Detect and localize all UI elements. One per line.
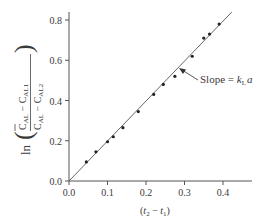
chart: 0.00.20.40.60.8 0.00.10.20.30.4 Slope = … [0,0,262,223]
x-tick-label: 0.0 [63,187,76,198]
data-point [85,160,88,163]
data-points [85,22,221,163]
data-point [208,32,211,35]
data-point [106,140,109,143]
svg-text:ln: ln [18,144,33,155]
data-point [112,135,115,138]
data-point [152,93,155,96]
svg-text:): ) [9,44,38,53]
y-axis-label: ln ( CAL − CAL1 CAL − CAL2 ) [9,44,45,155]
data-point [162,83,165,86]
data-point [94,150,97,153]
x-tick-label: 0.2 [140,187,153,198]
y-tick-label: 0.8 [50,15,63,26]
y-tick-label: 0.2 [50,136,63,147]
x-tick-label: 0.4 [217,187,230,198]
slope-annotation: Slope = kLa [179,68,253,87]
svg-text:CAL − CAL1: CAL − CAL1 [17,83,30,130]
y-ticks: 0.00.20.40.60.8 [50,15,70,187]
x-tick-label: 0.1 [101,187,114,198]
x-tick-label: 0.3 [178,187,191,198]
svg-text:(: ( [9,131,38,140]
data-point [137,110,140,113]
y-tick-label: 0.6 [50,55,63,66]
svg-text:CAL − CAL2: CAL − CAL2 [32,83,45,130]
data-point [202,37,205,40]
annotation-text: Slope = kLa [200,73,253,87]
data-point [121,126,124,129]
y-tick-label: 0.0 [50,176,63,187]
data-point [218,22,221,25]
fit-line [69,12,232,181]
data-point [173,75,176,78]
arrowhead-icon [179,68,186,74]
y-tick-label: 0.4 [50,96,63,107]
x-ticks: 0.00.10.20.30.4 [63,181,230,198]
data-point [191,55,194,58]
x-axis-label: (t2 − t1) [140,205,170,218]
